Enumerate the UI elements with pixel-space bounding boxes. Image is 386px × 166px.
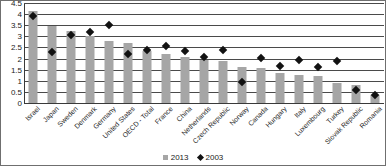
chart-container: 00.511.522.533.544.5 IsraelJapanSwedenDe… [0, 0, 386, 166]
bar-group [195, 4, 214, 104]
x-axis-tick-text: Italy [293, 105, 307, 119]
x-axis-tick-text: Czech Republic [191, 105, 231, 145]
legend-diamond-icon [196, 154, 203, 161]
marker-2003 [181, 46, 189, 54]
bar-2013 [48, 26, 57, 104]
bar-2013 [29, 11, 38, 104]
x-axis: IsraelJapanSwedenDenmarkGermanyUnited St… [24, 105, 384, 153]
y-axis: 00.511.522.533.544.5 [1, 1, 23, 107]
legend-item: 2003 [198, 153, 224, 162]
x-axis-tick-text: Israel [24, 105, 41, 122]
y-axis-tick: 1.5 [11, 67, 22, 75]
y-axis-tick: 2 [18, 56, 22, 64]
bar-group [43, 4, 62, 104]
legend-item: 2013 [163, 153, 189, 162]
chart-legend: 20132003 [1, 153, 385, 162]
legend-label: 2013 [171, 153, 189, 162]
y-axis-tick: 0.5 [11, 89, 22, 97]
marker-2003 [332, 56, 340, 64]
bar-group [346, 4, 365, 104]
marker-2003 [257, 54, 265, 62]
y-axis-tick: 1 [18, 78, 22, 86]
y-axis-tick: 4.5 [11, 0, 22, 8]
bars-layer [24, 4, 384, 104]
marker-2003 [105, 21, 113, 29]
bar-group [176, 4, 195, 104]
marker-2003 [86, 28, 94, 36]
marker-2003 [162, 42, 170, 50]
legend-square-icon [163, 155, 168, 160]
bar-group [308, 4, 327, 104]
bar-group [24, 4, 43, 104]
marker-2003 [313, 63, 321, 71]
marker-2003 [219, 45, 227, 53]
legend-label: 2003 [206, 153, 224, 162]
y-axis-tick: 3 [18, 33, 22, 41]
y-axis-tick: 4 [18, 11, 22, 19]
y-axis-tick: 2.5 [11, 44, 22, 52]
y-axis-tick: 0 [18, 100, 22, 108]
y-axis-tick: 3.5 [11, 22, 22, 30]
plot-area [24, 4, 384, 104]
marker-2003 [294, 55, 302, 63]
marker-2003 [276, 62, 284, 70]
bar-group [62, 4, 81, 104]
